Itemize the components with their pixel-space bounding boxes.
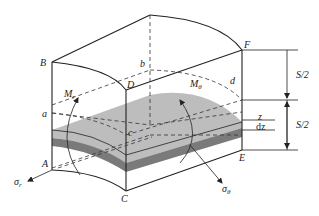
label-c: c — [128, 127, 133, 138]
label-half-thickness-bottom: S/2 — [296, 119, 309, 130]
label-A: A — [41, 158, 49, 169]
label-dz: dz — [256, 121, 266, 132]
label-D: D — [126, 79, 135, 90]
label-b: b — [140, 58, 145, 69]
label-half-thickness-top: S/2 — [296, 69, 309, 80]
label-sigma-r: σr — [14, 176, 22, 189]
sigma-theta-arrow — [190, 145, 222, 183]
label-d: d — [230, 75, 236, 86]
label-E: E — [238, 152, 245, 163]
shell-element-diagram: B D b F d a c A C E Mr Mθ σr σθ z dz S/2… — [0, 0, 319, 216]
sigma-r-arrow — [28, 170, 52, 181]
label-Mtheta: Mθ — [189, 78, 202, 91]
label-a: a — [42, 108, 47, 119]
label-Mr: Mr — [63, 88, 75, 101]
label-C: C — [121, 193, 128, 204]
label-F: F — [243, 39, 251, 50]
label-sigma-theta: σθ — [222, 183, 231, 196]
label-B: B — [40, 57, 46, 68]
thickness-dimension — [242, 50, 298, 150]
middle-layer-top-surface — [52, 93, 242, 163]
